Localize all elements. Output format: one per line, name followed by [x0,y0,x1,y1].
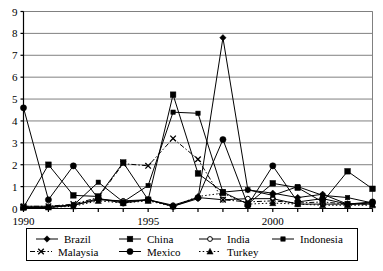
marker-china-2004 [370,186,376,192]
marker-indonesia-1997 [196,111,200,115]
marker-mexico-2002 [320,196,326,202]
marker-indonesia-2000 [271,193,275,197]
legend-label-indonesia: Indonesia [300,233,343,245]
marker-indonesia-1996 [171,110,175,114]
chart-container: 0123456789 199019952000 BrazilChinaIndia… [0,0,383,271]
line-chart: 0123456789 199019952000 BrazilChinaIndia… [0,0,383,271]
y-tick-label-5: 5 [12,93,18,105]
marker-indonesia-1999 [246,188,250,192]
x-tick-label-1995: 1995 [137,215,160,227]
marker-china-1992 [71,193,77,199]
legend-marker-indonesia [281,237,285,241]
y-tick-label-8: 8 [12,27,18,39]
legend-label-india: India [227,233,250,245]
marker-china-1991 [46,162,52,168]
y-tick-label-3: 3 [12,137,18,149]
marker-mexico-1998 [220,136,226,142]
marker-china-2000 [270,181,276,187]
y-tick-label-6: 6 [12,71,18,83]
y-tick-label-2: 2 [12,159,18,171]
legend-label-mexico: Mexico [147,246,181,258]
marker-indonesia-2003 [345,195,349,199]
marker-indonesia-2001 [296,184,300,188]
y-tick-label-9: 9 [12,6,18,18]
marker-china-1997 [195,171,201,177]
y-tick-label-4: 4 [12,115,18,127]
marker-china-2003 [345,168,351,174]
y-tick-label-1: 1 [12,181,18,193]
legend-label-malaysia: Malaysia [58,246,98,258]
marker-mexico-1992 [70,163,76,169]
legend-marker-india [208,237,213,242]
legend-marker-mexico [127,248,133,254]
legend-marker-china [127,236,133,242]
y-tick-label-7: 7 [12,49,18,61]
y-tick-label-0: 0 [12,203,18,215]
marker-indonesia-1995 [146,183,150,187]
chart-background [0,0,383,271]
marker-indonesia-1993 [96,180,100,184]
x-tick-label-1990: 1990 [13,215,36,227]
marker-china-1996 [170,92,176,98]
marker-mexico-2000 [270,163,276,169]
marker-mexico-1991 [45,197,51,203]
legend-label-brazil: Brazil [64,233,91,245]
legend-label-turkey: Turkey [227,246,259,258]
x-tick-label-2000: 2000 [262,215,285,227]
legend-label-china: China [147,233,173,245]
marker-mexico-1990 [20,105,26,111]
